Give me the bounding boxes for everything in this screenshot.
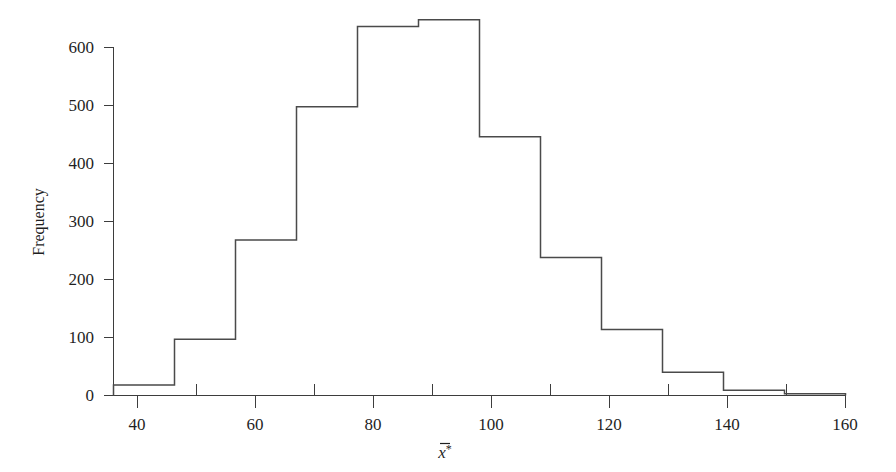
y-axis-ticks <box>104 48 114 396</box>
y-tick-labels: 0 100 200 300 400 500 600 <box>69 38 95 405</box>
y-axis-title: Frequency <box>30 188 48 256</box>
x-tick-label-120: 120 <box>596 415 622 434</box>
y-tick-label-100: 100 <box>69 328 95 347</box>
x-tick-label-60: 60 <box>247 415 264 434</box>
y-tick-label-200: 200 <box>69 270 95 289</box>
x-axis-title-group: x* <box>437 442 452 462</box>
x-axis-minor-ticks <box>197 384 787 396</box>
y-axis-title-group: Frequency <box>30 188 48 256</box>
x-tick-label-80: 80 <box>365 415 382 434</box>
y-tick-label-400: 400 <box>69 154 95 173</box>
x-tick-label-100: 100 <box>478 415 504 434</box>
x-tick-label-40: 40 <box>129 415 146 434</box>
y-tick-label-300: 300 <box>69 212 95 231</box>
y-tick-label-500: 500 <box>69 96 95 115</box>
x-tick-labels: 40 60 80 100 120 140 160 <box>129 415 858 434</box>
y-tick-label-0: 0 <box>86 386 95 405</box>
x-axis-major-ticks <box>138 396 846 409</box>
x-tick-label-140: 140 <box>714 415 740 434</box>
x-tick-label-160: 160 <box>832 415 858 434</box>
bar-outline-path <box>114 20 846 396</box>
x-axis-title: x* <box>437 442 452 462</box>
histogram-svg: Frequency 0 100 200 300 400 500 600 <box>0 0 896 472</box>
histogram-bars <box>114 20 846 396</box>
y-tick-label-600: 600 <box>69 38 95 57</box>
histogram-figure: Frequency 0 100 200 300 400 500 600 <box>0 0 896 472</box>
